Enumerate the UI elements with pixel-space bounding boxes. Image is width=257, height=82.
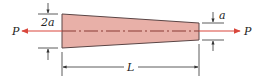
left-height-label: 2a bbox=[40, 16, 55, 29]
load-label-left: P bbox=[11, 25, 20, 38]
right-height-label: a bbox=[219, 9, 226, 22]
length-label: L bbox=[126, 61, 134, 74]
load-label-right: P bbox=[243, 25, 252, 38]
tapered-bar-diagram: P P 2a a L bbox=[0, 0, 257, 82]
